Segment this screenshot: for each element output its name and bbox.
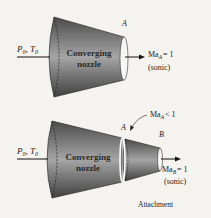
- top-exit-note: (sonic): [148, 63, 171, 72]
- attachment-label: Attachment: [138, 200, 174, 209]
- bottom-exit-mach: MaB= 1: [162, 165, 188, 175]
- top-nozzle-label-1: Converging: [67, 48, 113, 58]
- nozzle-diagram: P0, T0 Converging nozzle A MaA= 1 (sonic…: [0, 0, 211, 218]
- top-nozzle-label-2: nozzle: [77, 59, 101, 69]
- attachment: [123, 139, 160, 181]
- top-point-a: A: [121, 19, 127, 28]
- bottom-nozzle-label-1: Converging: [66, 152, 112, 162]
- bottom-inlet-label: P0, T0: [16, 146, 38, 157]
- bottom-point-b: B: [159, 130, 164, 139]
- top-inlet-label: P0, T0: [16, 44, 38, 55]
- top-exit-mach: MaA= 1: [148, 50, 174, 60]
- bottom-point-a: A: [120, 123, 126, 132]
- bottom-exit-note: (sonic): [164, 177, 187, 186]
- bottom-nozzle-label-2: nozzle: [76, 163, 100, 173]
- callout-mach-a: MaA< 1: [150, 110, 176, 120]
- callout-arrow: [132, 115, 147, 127]
